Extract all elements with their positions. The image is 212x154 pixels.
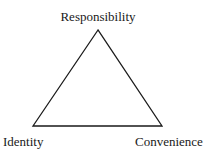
vertex-label-identity: Identity (3, 135, 43, 148)
vertex-label-responsibility: Responsibility (60, 10, 135, 23)
vertex-label-convenience: Convenience (135, 135, 203, 148)
triangle-diagram: Responsibility Identity Convenience (0, 0, 212, 154)
